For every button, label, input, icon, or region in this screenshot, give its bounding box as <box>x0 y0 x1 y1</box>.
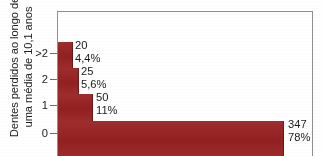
y-tick-label-0: 0 <box>22 128 48 139</box>
data-label-gt2-percent: 4,4% <box>75 53 101 65</box>
y-tick-mark-1 <box>50 105 57 106</box>
bar-1 <box>58 94 93 121</box>
data-label-gt2: 20 4,4% <box>75 40 101 65</box>
y-axis-title-line-1: Dentes perdidos ao longo de <box>8 0 22 142</box>
data-label-1-count: 50 <box>96 92 118 104</box>
bar-0 <box>58 121 284 156</box>
data-label-2-percent: 5,6% <box>81 79 107 91</box>
bar-edge-gt2 <box>72 42 73 68</box>
data-label-gt2-count: 20 <box>75 40 101 52</box>
bar-chart: Dentes perdidos ao longo de uma média de… <box>0 0 323 156</box>
bar-edge-2 <box>78 68 79 94</box>
y-axis-tick-labels: >2 2 1 0 <box>22 0 48 156</box>
y-tick-mark-2 <box>50 79 57 80</box>
y-tick-label-2: 2 <box>22 74 48 85</box>
data-label-0-percent: 78% <box>288 132 310 144</box>
bar-edge-0 <box>283 121 284 156</box>
data-label-0: 347 78% <box>288 119 310 144</box>
data-label-1: 50 11% <box>96 92 118 117</box>
bar-gt2 <box>58 42 73 68</box>
bar-2 <box>58 68 79 94</box>
bar-edge-1 <box>92 94 93 121</box>
data-label-2: 25 5,6% <box>81 66 107 91</box>
data-label-1-percent: 11% <box>96 105 118 117</box>
y-tick-label-1: 1 <box>22 100 48 111</box>
y-tick-mark-0 <box>50 133 57 134</box>
data-label-2-count: 25 <box>81 66 107 78</box>
y-tick-mark-gt2 <box>50 53 57 54</box>
y-tick-label-gt2: >2 <box>22 48 48 59</box>
data-label-0-count: 347 <box>288 119 310 131</box>
